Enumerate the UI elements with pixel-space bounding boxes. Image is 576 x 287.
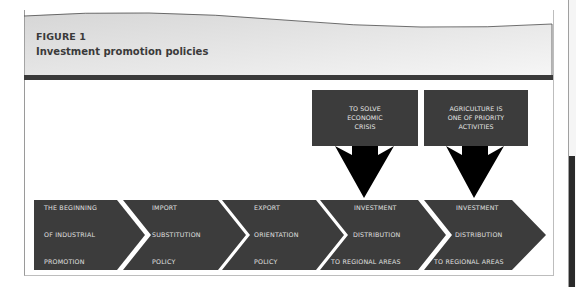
stage-1-line-2: OF INDUSTRIAL [44, 231, 95, 238]
stage-5-line-3: TO REGIONAL AREAS [434, 258, 504, 265]
down-arrow-2 [446, 146, 504, 198]
stage-3-line-2: ORIENTATION [254, 231, 299, 238]
callout-text-2: AGRICULTURE IS ONE OF PRIORITY ACTIVITIE… [424, 104, 528, 131]
callout-1-line-1: TO SOLVE [312, 104, 418, 113]
stage-2-line-2: SUBSTITUTION [152, 231, 201, 238]
page-edge-dark-block [569, 156, 575, 287]
stage-2-line-1: IMPORT [152, 204, 177, 211]
stage-4-line-2: DISTRIBUTION [353, 231, 400, 238]
stage-1-line-3: PROMOTION [44, 258, 85, 265]
stage-3-line-1: EXPORT [254, 204, 280, 211]
stage-3-line-3: POLICY [254, 258, 277, 265]
stage-1-line-1: THE BEGINNING [44, 204, 97, 211]
callout-text-1: TO SOLVE ECONOMIC CRISIS [312, 104, 418, 131]
callout-2-line-3: ACTIVITIES [424, 122, 528, 131]
down-arrow-1 [335, 146, 394, 198]
callout-2-line-2: ONE OF PRIORITY [424, 113, 528, 122]
stage-5-line-2: DISTRIBUTION [455, 231, 502, 238]
stage-4-line-1: INVESTMENT [354, 204, 397, 211]
stage-5-line-1: INVESTMENT [456, 204, 499, 211]
callout-2-line-1: AGRICULTURE IS [424, 104, 528, 113]
callout-1-line-2: ECONOMIC [312, 113, 418, 122]
callout-1-line-3: CRISIS [312, 122, 418, 131]
stage-4-line-3: TO REGIONAL AREAS [331, 258, 401, 265]
stage-2-line-3: POLICY [152, 258, 175, 265]
